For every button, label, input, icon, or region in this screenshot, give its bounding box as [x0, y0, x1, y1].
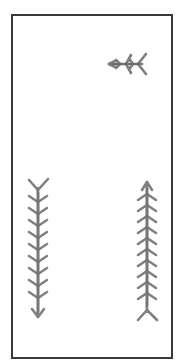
fishbone-arrow-left-icon: [106, 49, 150, 77]
fishbone-arrow-up-icon: [134, 178, 160, 324]
fishbone-arrow-down-icon: [24, 176, 52, 322]
